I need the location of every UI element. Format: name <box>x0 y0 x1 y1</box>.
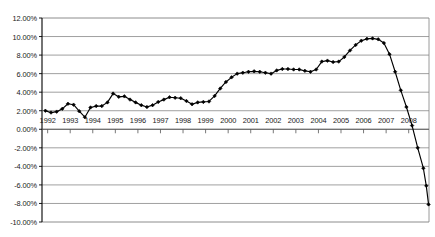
x-axis-tick-label: 2004 <box>310 116 326 125</box>
data-point-marker <box>202 100 206 104</box>
data-point-marker <box>309 70 313 74</box>
data-point-marker <box>303 69 307 73</box>
x-axis-tick-label: 2007 <box>378 116 394 125</box>
x-axis-tick-label: 1995 <box>107 116 123 125</box>
y-axis-tick-label: 4.00% <box>17 88 37 97</box>
data-point-marker <box>286 67 290 71</box>
x-axis-tick-label: 1993 <box>62 116 78 125</box>
x-axis-tick-label: 1998 <box>175 116 191 125</box>
x-axis-tick-label: 2000 <box>220 116 236 125</box>
x-axis-tick-label: 2006 <box>356 116 372 125</box>
x-axis-tick-label: 1996 <box>130 116 146 125</box>
data-point-marker <box>371 37 375 41</box>
data-point-marker <box>405 105 409 109</box>
data-point-marker <box>422 166 426 170</box>
data-point-marker <box>292 68 296 72</box>
data-point-marker <box>44 109 48 113</box>
y-axis-tick-label: 2.00% <box>17 106 37 115</box>
data-point-marker <box>162 98 166 102</box>
y-axis-tick-label: -4.00% <box>14 162 37 171</box>
data-series-markers <box>44 37 431 206</box>
y-axis-tick-label: 8.00% <box>17 51 37 60</box>
y-axis-tick-label: 10.00% <box>13 32 37 41</box>
data-point-marker <box>399 89 403 93</box>
data-point-marker <box>258 70 262 74</box>
data-point-marker <box>326 59 330 63</box>
y-axis-tick-label: 0.00% <box>17 125 37 134</box>
data-point-marker <box>281 67 285 71</box>
data-point-marker <box>365 37 369 41</box>
y-axis-tick-label: -6.00% <box>14 180 37 189</box>
y-axis-tick-label: -2.00% <box>14 143 37 152</box>
x-axis-tick-label: 2003 <box>288 116 304 125</box>
x-axis-tick-label: 1994 <box>85 116 101 125</box>
data-point-marker <box>49 111 53 115</box>
x-axis-tick-label: 2008 <box>401 116 417 125</box>
data-point-marker <box>416 146 420 150</box>
data-point-marker <box>94 104 98 108</box>
y-axis-tick-label: -10.00% <box>10 218 37 227</box>
data-point-marker <box>393 70 397 74</box>
y-axis-tick-label: 12.00% <box>13 14 37 23</box>
data-point-marker <box>331 60 335 64</box>
data-point-marker <box>145 105 149 109</box>
x-axis-tick-label: 2001 <box>243 116 259 125</box>
x-axis-tick-label: 1999 <box>198 116 214 125</box>
x-axis-tick-label: 2005 <box>333 116 349 125</box>
y-axis-tick-label: -8.00% <box>14 199 37 208</box>
data-point-marker <box>196 101 200 105</box>
data-point-marker <box>247 70 251 74</box>
x-axis-tick-label: 2002 <box>265 116 281 125</box>
data-point-marker <box>173 96 177 100</box>
data-point-marker <box>252 70 256 74</box>
line-chart: 12.00%10.00%8.00%6.00%4.00%2.00%0.00%-2.… <box>0 0 435 237</box>
x-axis-tick-label: 1992 <box>40 116 56 125</box>
data-point-marker <box>297 68 301 72</box>
y-axis-tick-label: 6.00% <box>17 69 37 78</box>
x-axis-tick-label: 1997 <box>152 116 168 125</box>
data-point-marker <box>168 96 172 100</box>
